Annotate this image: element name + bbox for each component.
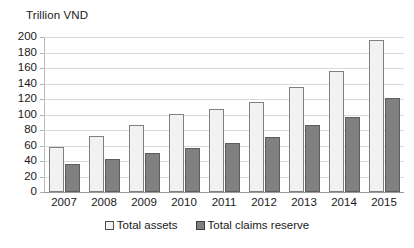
x-axis-tick-label: 2009 (124, 195, 164, 209)
y-axis-tick-label: 120 (3, 93, 37, 105)
bar-2009-total-assets (129, 125, 144, 192)
x-axis-tick-label: 2014 (324, 195, 364, 209)
y-axis-tick-labels: 200180160140120100806040200 (0, 0, 44, 248)
bar-2009-total-claims-reserve (145, 153, 160, 192)
bar-2008-total-assets (89, 136, 104, 192)
y-axis-tick-label: 60 (3, 140, 37, 152)
bar-group-2012 (249, 37, 280, 192)
bar-2010-total-assets (169, 114, 184, 192)
bar-2011-total-assets (209, 109, 224, 192)
bar-2013-total-claims-reserve (305, 125, 320, 192)
legend-item-total-assets[interactable]: Total assets (105, 219, 178, 231)
x-axis-tick-labels: 200720082009201020112012201320142015 (44, 195, 404, 215)
bar-chart: Trillion VND 200180160140120100806040200… (0, 0, 414, 248)
y-axis-tick-label: 40 (3, 155, 37, 167)
y-axis-tick-mark (40, 192, 44, 193)
gridline (44, 192, 404, 193)
x-axis-tick-label: 2011 (204, 195, 244, 209)
y-axis-tick-label: 200 (3, 31, 37, 43)
bar-group-2009 (129, 37, 160, 192)
bar-2014-total-assets (329, 71, 344, 192)
plot-area (44, 37, 404, 192)
y-axis-tick-label: 160 (3, 62, 37, 74)
bar-group-2010 (169, 37, 200, 192)
y-axis-tick-label: 100 (3, 109, 37, 121)
bar-2010-total-claims-reserve (185, 148, 200, 192)
bar-group-2008 (89, 37, 120, 192)
x-axis-tick-label: 2008 (84, 195, 124, 209)
bar-2011-total-claims-reserve (225, 143, 240, 192)
legend-item-total-claims-reserve[interactable]: Total claims reserve (196, 219, 310, 231)
bar-group-2007 (49, 37, 80, 192)
bar-group-2013 (289, 37, 320, 192)
bar-2012-total-claims-reserve (265, 137, 280, 192)
bar-group-2014 (329, 37, 360, 192)
legend-item-label: Total assets (117, 219, 178, 231)
y-axis-tick-label: 20 (3, 171, 37, 183)
bar-2007-total-assets (49, 147, 64, 192)
x-axis-tick-label: 2010 (164, 195, 204, 209)
bar-group-2011 (209, 37, 240, 192)
bar-2013-total-assets (289, 87, 304, 192)
legend-item-label: Total claims reserve (208, 219, 310, 231)
y-axis-tick-label: 80 (3, 124, 37, 136)
y-axis-tick-label: 140 (3, 78, 37, 90)
bar-2015-total-claims-reserve (385, 98, 400, 192)
y-axis-tick-label: 0 (3, 186, 37, 198)
bar-2012-total-assets (249, 102, 264, 192)
x-axis-tick-label: 2015 (364, 195, 404, 209)
bar-2007-total-claims-reserve (65, 164, 80, 192)
x-axis-tick-label: 2007 (44, 195, 84, 209)
x-axis-tick-label: 2013 (284, 195, 324, 209)
legend-swatch-icon (196, 221, 205, 230)
x-axis-tick-label: 2012 (244, 195, 284, 209)
bar-2015-total-assets (369, 40, 384, 192)
chart-legend: Total assetsTotal claims reserve (0, 219, 414, 231)
bar-group-2015 (369, 37, 400, 192)
bar-2008-total-claims-reserve (105, 159, 120, 192)
bars-layer (44, 37, 404, 192)
bar-2014-total-claims-reserve (345, 117, 360, 192)
y-axis-tick-label: 180 (3, 47, 37, 59)
legend-swatch-icon (105, 221, 114, 230)
